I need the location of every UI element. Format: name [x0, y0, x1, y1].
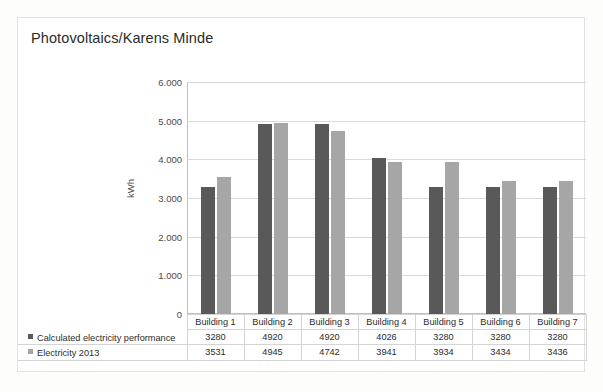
table-category-header: Building 2: [244, 315, 301, 330]
y-axis-label: kWh: [125, 179, 136, 198]
chart-title: Photovoltaics/Karens Minde: [31, 30, 213, 46]
table-value-cell: 4920: [244, 330, 301, 345]
table-value-cell: 3531: [187, 345, 244, 361]
y-axis-tick-label: 6.000: [158, 77, 182, 88]
bar: [201, 187, 215, 314]
table-value-cell: 4945: [244, 345, 301, 361]
bar-group: [529, 82, 586, 314]
bar: [372, 158, 386, 314]
table-category-header: Building 3: [301, 315, 358, 330]
bar-group: [358, 82, 415, 314]
legend-entry: Electricity 2013: [18, 345, 187, 361]
table-value-cell: 3280: [472, 330, 529, 345]
table-value-cell: 3280: [187, 330, 244, 345]
table-value-cell: 3436: [529, 345, 586, 361]
table-value-cell: 4742: [301, 345, 358, 361]
y-axis-tick-label: 1.000: [158, 270, 182, 281]
table-value-cell: 3280: [529, 330, 586, 345]
bar-group: [415, 82, 472, 314]
table-category-header: Building 6: [472, 315, 529, 330]
y-axis-tick-label: 5.000: [158, 115, 182, 126]
table-body: Calculated electricity performance328049…: [18, 330, 586, 361]
bar: [429, 187, 443, 314]
table-category-header: Building 7: [529, 315, 586, 330]
table-value-cell: 4920: [301, 330, 358, 345]
plot-area: [187, 82, 586, 314]
bar: [315, 124, 329, 314]
bar: [559, 181, 573, 314]
table-category-header: Building 4: [358, 315, 415, 330]
table-value-cell: 3280: [415, 330, 472, 345]
table-row: Electricity 2013353149454742394139343434…: [18, 345, 586, 361]
bar-group: [187, 82, 244, 314]
bar: [274, 123, 288, 314]
table-header-row: Building 1Building 2Building 3Building 4…: [18, 315, 586, 330]
legend-entry: Calculated electricity performance: [18, 330, 187, 345]
table-row: Calculated electricity performance328049…: [18, 330, 586, 345]
bar-group: [301, 82, 358, 314]
y-axis-tick-labels: 01.0002.0003.0004.0005.0006.000: [138, 82, 182, 314]
bar: [388, 162, 402, 314]
bar-group: [472, 82, 529, 314]
y-axis-tick-label: 4.000: [158, 154, 182, 165]
legend-swatch-icon: [28, 349, 33, 354]
bar-group: [244, 82, 301, 314]
legend-swatch-icon: [28, 334, 33, 339]
chart-frame: Photovoltaics/Karens Minde kWh 01.0002.0…: [17, 17, 585, 372]
table-category-header: Building 5: [415, 315, 472, 330]
bar: [217, 177, 231, 314]
table-value-cell: 4026: [358, 330, 415, 345]
y-axis-tick-label: 3.000: [158, 193, 182, 204]
bar: [543, 187, 557, 314]
bar: [486, 187, 500, 314]
table-value-cell: 3934: [415, 345, 472, 361]
table-value-cell: 3941: [358, 345, 415, 361]
table-category-header: Building 1: [187, 315, 244, 330]
y-axis-tick-label: 2.000: [158, 231, 182, 242]
bar: [331, 131, 345, 314]
table-corner-cell: [18, 315, 187, 330]
table-value-cell: 3434: [472, 345, 529, 361]
bar: [258, 124, 272, 314]
legend-label: Electricity 2013: [37, 348, 99, 358]
bar: [445, 162, 459, 314]
bar: [502, 181, 516, 314]
legend-label: Calculated electricity performance: [37, 332, 175, 342]
chart-data-table: Building 1Building 2Building 3Building 4…: [18, 314, 587, 361]
